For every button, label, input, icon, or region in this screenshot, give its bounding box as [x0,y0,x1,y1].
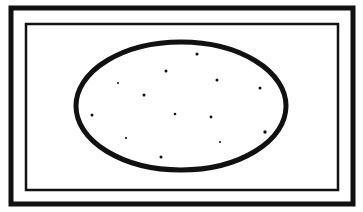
dot [259,87,262,90]
dot [174,113,177,116]
cracker-illustration [0,0,363,212]
dot [117,82,119,84]
dot [91,114,94,117]
dot [263,130,266,133]
dot [195,52,198,55]
dot [160,156,163,159]
dot [125,137,127,139]
dot [219,141,221,143]
dot [210,116,213,119]
cracker-oval [76,42,286,170]
dot [165,70,168,73]
dot [143,94,146,97]
dot [216,79,219,82]
cracker-icon [0,0,363,212]
